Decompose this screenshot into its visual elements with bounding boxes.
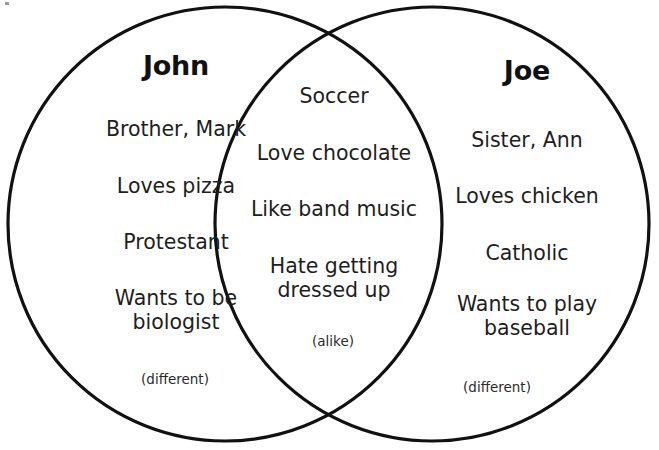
venn-left-note: (different) (90, 371, 260, 387)
venn-left-item-2: Protestant (46, 230, 306, 254)
venn-left-item-0: Brother, Mark (46, 117, 306, 141)
venn-diagram-canvas: John Brother, Mark Loves pizza Protestan… (0, 0, 659, 450)
venn-center-item-2: Like band music (243, 197, 425, 221)
venn-right-heading: Joe (420, 55, 634, 86)
venn-center-item-1: Love chocolate (243, 141, 425, 165)
venn-center-note: (alike) (258, 333, 408, 349)
venn-right-item-1: Loves chicken (420, 184, 634, 208)
venn-left-heading: John (46, 50, 306, 81)
venn-right-item-3: Wants to play baseball (420, 292, 634, 340)
venn-center-item-3: Hate getting dressed up (243, 254, 425, 302)
venn-left-item-1: Loves pizza (46, 174, 306, 198)
venn-right-item-0: Sister, Ann (420, 128, 634, 152)
venn-right-note: (different) (412, 379, 582, 395)
venn-right-item-2: Catholic (420, 241, 634, 265)
venn-center-item-0: Soccer (243, 84, 425, 108)
